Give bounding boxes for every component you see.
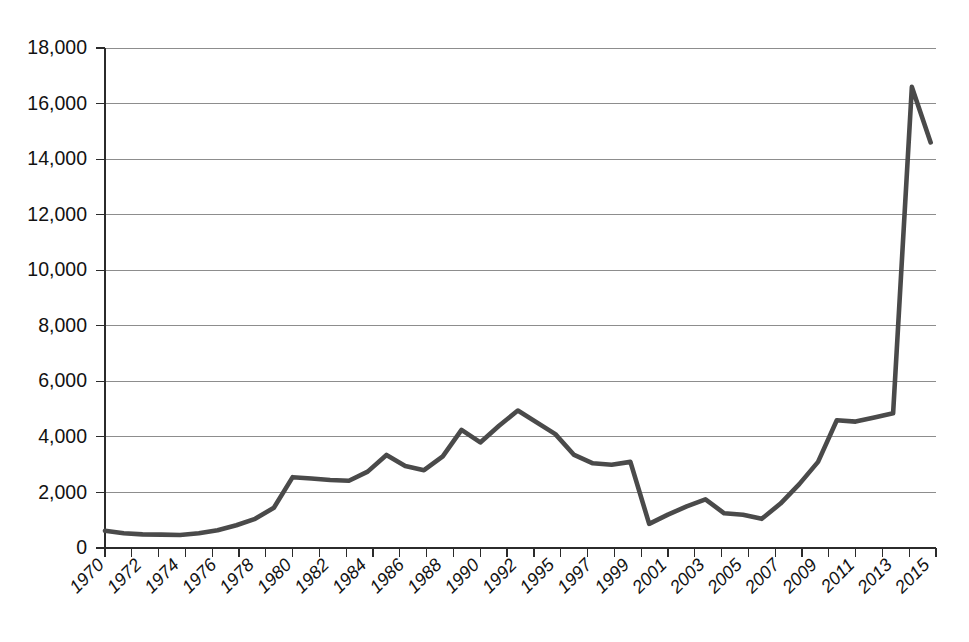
y-axis-tick-label: 6,000 (38, 369, 87, 391)
y-axis-tick-label: 4,000 (38, 425, 87, 447)
y-axis-tick-label: 12,000 (27, 203, 87, 225)
y-axis-tick-label: 18,000 (27, 36, 87, 58)
y-axis-tick-label: 2,000 (38, 481, 87, 503)
chart-background (0, 0, 969, 642)
chart-canvas: 02,0004,0006,0008,00010,00012,00014,0001… (0, 0, 969, 642)
y-axis-tick-label: 10,000 (27, 258, 87, 280)
y-axis-tick-label: 16,000 (27, 92, 87, 114)
y-axis-tick-label: 14,000 (27, 147, 87, 169)
line-chart: 02,0004,0006,0008,00010,00012,00014,0001… (0, 0, 969, 642)
y-axis-tick-label: 8,000 (38, 314, 87, 336)
y-axis-tick-label: 0 (76, 536, 87, 558)
